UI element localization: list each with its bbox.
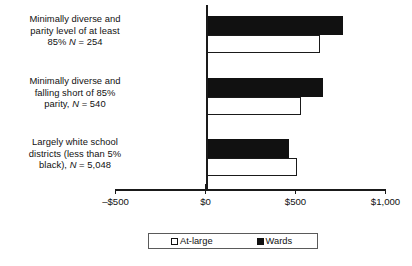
bar-wards-group-0 (206, 16, 344, 35)
black-square-icon (257, 238, 264, 245)
bar-wards-group-1 (206, 78, 323, 97)
x-tick-label-0: –$500 (102, 196, 129, 207)
legend-item-at-large[interactable]: At-large (171, 236, 213, 246)
zero-baseline (206, 5, 208, 189)
x-tick-3 (385, 189, 387, 194)
bar-atlarge-group-0 (206, 35, 320, 54)
x-tick-label-1: $0 (200, 196, 211, 207)
bar-wards-group-2 (206, 139, 290, 158)
x-tick-label-3: $1,000 (371, 196, 400, 207)
plot-area: –$500$0$500$1,000 (0, 0, 412, 200)
chart-legend: At-large Wards (148, 233, 318, 249)
x-tick-1 (205, 184, 207, 194)
x-tick-2 (295, 189, 297, 194)
chart-figure: Minimally diverse and parity level of at… (0, 0, 412, 266)
legend-item-wards[interactable]: Wards (257, 236, 293, 246)
x-tick-label-2: $500 (285, 196, 306, 207)
legend-item-at-large-label: At-large (180, 236, 213, 246)
bar-atlarge-group-2 (206, 158, 298, 177)
legend-item-wards-label: Wards (266, 236, 293, 246)
x-axis-line (116, 189, 386, 191)
white-square-icon (171, 238, 178, 245)
x-tick-0 (115, 189, 117, 194)
bar-atlarge-group-1 (206, 97, 302, 116)
